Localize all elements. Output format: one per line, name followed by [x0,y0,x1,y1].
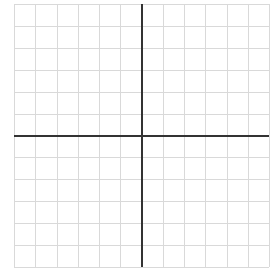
coordinate-grid [0,0,277,280]
coordinate-plane [0,0,277,280]
